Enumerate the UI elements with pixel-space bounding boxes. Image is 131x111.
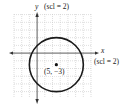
center-point [55, 63, 58, 66]
center-label: (5, −3) [44, 68, 64, 76]
x-axis-label: x [101, 47, 104, 55]
x-axis-right-arrow-icon [95, 51, 99, 54]
coordinate-plane [0, 0, 131, 111]
x-axis-scale-label: (scl = 2) [94, 58, 119, 66]
y-axis-scale-label: (scl = 2) [44, 3, 69, 11]
grid [14, 14, 91, 97]
axes [9, 12, 99, 104]
y-axis-label: y [35, 3, 38, 11]
y-axis-down-arrow-icon [35, 99, 38, 104]
x-axis-left-arrow-icon [9, 51, 13, 54]
